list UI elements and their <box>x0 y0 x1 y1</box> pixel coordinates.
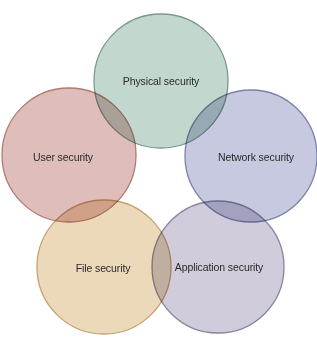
security-venn-diagram: Physical security User security Network … <box>0 0 317 338</box>
circle-application-security <box>152 201 284 333</box>
diagram-canvas <box>0 0 317 338</box>
circle-file-security <box>37 200 171 334</box>
